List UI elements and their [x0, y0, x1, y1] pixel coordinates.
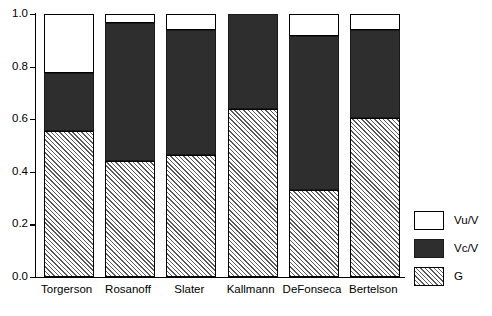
bar-segment-g[interactable] — [350, 118, 400, 277]
bar-segment-vc[interactable] — [289, 36, 339, 190]
x-axis-tick-label: Bertelson — [343, 283, 404, 296]
bar-segment-vu[interactable] — [44, 14, 94, 73]
bar-stack[interactable] — [44, 14, 94, 277]
bar-segment-vu[interactable] — [289, 14, 339, 36]
x-axis-tick-label: Torgerson — [36, 283, 97, 296]
bar-segment-vc[interactable] — [228, 14, 278, 109]
y-axis-tick-label: 0.2 — [0, 219, 28, 231]
bar-segment-vu[interactable] — [166, 14, 216, 30]
hatched-swatch — [414, 267, 444, 286]
bar-segment-vc[interactable] — [350, 30, 400, 118]
bar-stack[interactable] — [289, 14, 339, 277]
bar-stack[interactable] — [350, 14, 400, 277]
y-axis-tick-label: 0.6 — [0, 113, 28, 125]
bar-segment-g[interactable] — [289, 190, 339, 277]
white-swatch — [414, 211, 444, 230]
stacked-bar-chart-figure: 0.00.20.40.60.81.0 TorgersonRosanoffSlat… — [0, 0, 492, 316]
bar-stack[interactable] — [105, 14, 155, 277]
x-axis-tick-label: DeFonseca — [281, 283, 342, 296]
x-axis-line — [35, 277, 405, 278]
bar-segment-vc[interactable] — [166, 30, 216, 155]
bar-segment-g[interactable] — [166, 155, 216, 277]
bar-stack[interactable] — [166, 14, 216, 277]
dark-swatch — [414, 239, 444, 258]
bar-segment-vu[interactable] — [105, 14, 155, 23]
bar-stack[interactable] — [228, 14, 278, 277]
bar-segment-vc[interactable] — [44, 73, 94, 131]
y-axis-tick-label: 1.0 — [0, 8, 28, 20]
bar-segment-vc[interactable] — [105, 23, 155, 161]
y-axis-tick-labels: 0.00.20.40.60.81.0 — [0, 0, 28, 316]
legend-label: G — [454, 267, 463, 286]
y-axis-tick-mark — [30, 277, 36, 278]
bar-segment-vu[interactable] — [350, 14, 400, 30]
y-axis-tick-label: 0.4 — [0, 166, 28, 178]
legend-label: Vu/V — [454, 211, 479, 230]
bar-segment-g[interactable] — [228, 109, 278, 277]
y-axis-tick-label: 0.0 — [0, 271, 28, 283]
plot-area — [36, 14, 404, 277]
legend-label: Vc/V — [454, 239, 478, 258]
y-axis-tick-label: 0.8 — [0, 61, 28, 73]
bar-segment-g[interactable] — [44, 131, 94, 277]
x-axis-tick-label: Slater — [159, 283, 220, 296]
x-axis-tick-label: Rosanoff — [97, 283, 158, 296]
x-axis-tick-label: Kallmann — [220, 283, 281, 296]
bar-segment-g[interactable] — [105, 161, 155, 277]
